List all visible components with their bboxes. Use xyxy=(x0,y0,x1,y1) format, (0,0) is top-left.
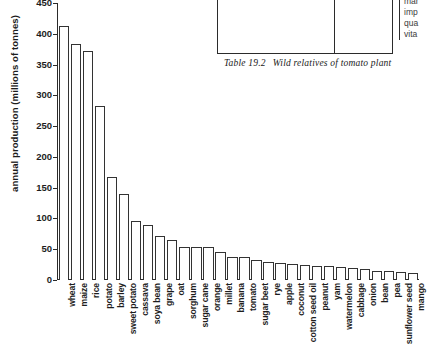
x-tick-label-cotton-seed-oil: cotton seed oil xyxy=(308,283,318,342)
bar-cabbage xyxy=(348,268,358,280)
x-tick-label-potato: potato xyxy=(104,283,114,309)
x-axis-tick-labels: wheatmaizericepotatobarleysweet potatoca… xyxy=(58,283,419,359)
bar-sugar-cane xyxy=(191,247,201,280)
bar-cotton-seed-oil xyxy=(300,265,310,280)
x-tick-label-sunflower-seed: sunflower seed xyxy=(404,283,414,344)
x-tick-label-sugar-cane: sugar cane xyxy=(200,283,210,327)
x-tick-label-rice: rice xyxy=(91,283,101,298)
x-tick-label-cassava: cassava xyxy=(140,283,150,316)
bar-rice xyxy=(83,51,93,280)
bar-wheat xyxy=(59,26,69,280)
bar-peanut xyxy=(312,266,322,280)
bar-tomato xyxy=(239,257,249,280)
x-tick-label-rye: rye xyxy=(272,283,282,296)
x-tick-label-wheat: wheat xyxy=(67,283,77,307)
y-tick-label-300: 300 xyxy=(22,90,52,100)
y-tick-label-350: 350 xyxy=(22,60,52,70)
bar-rye xyxy=(263,262,273,280)
x-tick-label-onion: onion xyxy=(368,283,378,306)
bar-sunflower-seed xyxy=(396,272,406,280)
x-tick-label-grape: grape xyxy=(164,283,174,306)
x-tick-label-oat: oat xyxy=(176,283,186,296)
bar-pea xyxy=(384,271,394,280)
x-tick-label-mango: mango xyxy=(416,283,426,311)
bar-soya-bean xyxy=(143,225,153,280)
bar-apple xyxy=(275,263,285,280)
plot-area xyxy=(58,3,419,280)
bar-banana xyxy=(227,257,237,280)
bar-yam xyxy=(324,266,334,280)
x-tick-label-yam: yam xyxy=(332,283,342,300)
x-tick-label-maize: maize xyxy=(79,283,89,306)
bar-sugar-beet xyxy=(251,260,261,280)
x-tick-label-sorghum: sorghum xyxy=(188,283,198,319)
bar-coconut xyxy=(287,264,297,280)
y-tick-label-150: 150 xyxy=(22,183,52,193)
bar-millet xyxy=(215,252,225,280)
bar-mango xyxy=(408,273,418,280)
x-tick-label-bean: bean xyxy=(380,283,390,303)
x-tick-label-millet: millet xyxy=(224,283,234,305)
bar-potato xyxy=(95,106,105,280)
y-tick-label-0: 0 xyxy=(22,275,52,285)
y-tick-label-100: 100 xyxy=(22,213,52,223)
x-tick-label-cabbage: cabbage xyxy=(356,283,366,317)
x-tick-label-sweet-potato: sweet potato xyxy=(128,283,138,334)
bar-onion xyxy=(360,269,370,280)
bar-cassava xyxy=(131,221,141,280)
bar-sweet-potato xyxy=(119,194,129,280)
y-tick-label-250: 250 xyxy=(22,121,52,131)
y-tick-label-450: 450 xyxy=(22,0,52,8)
y-axis-title: annual production (millions of tonnes) xyxy=(9,0,20,209)
bar-oat xyxy=(167,240,177,280)
bar-watermelon xyxy=(336,267,346,280)
bar-grape xyxy=(155,236,165,280)
x-tick-label-peanut: peanut xyxy=(320,283,330,311)
x-tick-label-apple: apple xyxy=(284,283,294,305)
bar-bean xyxy=(372,271,382,280)
x-tick-label-sugar-beet: sugar beet xyxy=(260,283,270,325)
x-tick-label-coconut: coconut xyxy=(296,283,306,316)
x-tick-label-pea: pea xyxy=(392,283,402,298)
bar-maize xyxy=(71,44,81,280)
x-tick-label-barley: barley xyxy=(116,283,126,308)
x-tick-label-tomato: tomato xyxy=(248,283,258,311)
x-tick-label-soya-bean: soya bean xyxy=(152,283,162,324)
y-tick-mark-0 xyxy=(53,280,57,281)
bar-barley xyxy=(107,177,117,280)
x-tick-label-orange: orange xyxy=(212,283,222,311)
bar-sorghum xyxy=(179,247,189,280)
bar-orange xyxy=(203,247,213,280)
y-axis-tick-labels: 050100150200250300350400450 xyxy=(22,0,52,290)
x-tick-label-watermelon: watermelon xyxy=(344,283,354,330)
y-tick-label-200: 200 xyxy=(22,152,52,162)
x-tick-label-banana: banana xyxy=(236,283,246,313)
y-tick-label-50: 50 xyxy=(22,244,52,254)
y-tick-label-400: 400 xyxy=(22,29,52,39)
